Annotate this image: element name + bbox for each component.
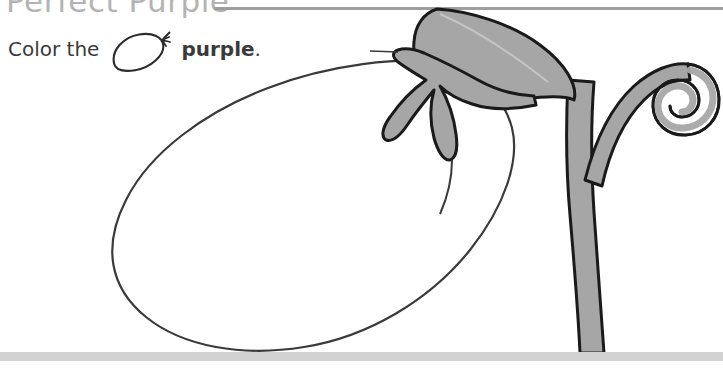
- page-title: Perfect Purple: [6, 0, 229, 19]
- worksheet-page: Perfect Purple Color the purple .: [0, 0, 723, 369]
- eggplant-tendril-arm: [585, 64, 690, 186]
- calyx-whisker: [370, 51, 398, 52]
- eggplant-outline-icon: [107, 30, 179, 72]
- calyx-connector: [440, 160, 452, 214]
- eggplant-body: [112, 60, 514, 350]
- header-rule-divider: [214, 7, 723, 10]
- eggplant-leaf: [414, 9, 575, 101]
- ground-line: [0, 352, 723, 361]
- eggplant-leaf-vein: [440, 14, 548, 82]
- eggplant-stem: [567, 80, 604, 353]
- instruction-prefix: Color the: [8, 37, 99, 61]
- instruction-line: Color the purple .: [8, 32, 261, 66]
- eggplant-tendril-spiral: [653, 64, 719, 135]
- instruction-suffix: .: [255, 37, 261, 61]
- instruction-target-word: purple: [181, 37, 254, 61]
- eggplant-calyx: [383, 49, 536, 160]
